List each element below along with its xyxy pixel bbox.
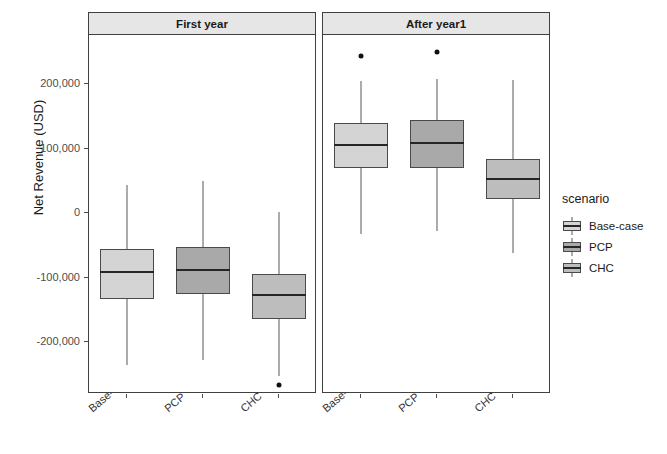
legend-key-icon xyxy=(562,216,582,236)
legend-label: CHC xyxy=(589,262,614,274)
outlier-point xyxy=(359,53,364,58)
legend-item-base-case[interactable]: Base-case xyxy=(562,216,643,236)
whisker-upper xyxy=(437,79,438,120)
y-tick-label: 0 xyxy=(18,206,80,218)
legend-title: scenario xyxy=(562,192,609,206)
facet-panel-first-year: First year xyxy=(88,12,316,393)
y-tick-label: -200,000 xyxy=(18,335,80,347)
boxplot-pcp[interactable] xyxy=(410,35,464,392)
facet-strip-label: After year1 xyxy=(323,13,549,35)
outlier-point xyxy=(435,49,440,54)
x-tick-mark xyxy=(278,394,279,398)
whisker-lower xyxy=(361,168,362,234)
x-tick-label: PCP xyxy=(396,390,421,414)
y-tick-label: 100,000 xyxy=(18,142,80,154)
median-line xyxy=(486,178,540,180)
boxplot-base-case[interactable] xyxy=(100,35,154,392)
x-tick-label: PCP xyxy=(162,390,187,414)
boxplot-pcp[interactable] xyxy=(176,35,230,392)
box-iqr xyxy=(252,274,306,319)
median-line xyxy=(100,271,154,273)
whisker-upper xyxy=(203,181,204,247)
whisker-upper xyxy=(361,81,362,124)
x-tick-mark xyxy=(126,394,127,398)
whisker-lower xyxy=(437,168,438,231)
x-tick-mark xyxy=(360,394,361,398)
whisker-upper xyxy=(127,185,128,250)
facet-strip-label: First year xyxy=(89,13,315,35)
whisker-lower xyxy=(513,199,514,253)
chart-canvas: Net Revenue (USD) 200,000100,0000-100,00… xyxy=(0,0,667,454)
whisker-upper xyxy=(279,212,280,275)
median-line xyxy=(410,142,464,144)
legend-item-chc[interactable]: CHC xyxy=(562,258,614,278)
x-tick-mark xyxy=(202,394,203,398)
x-tick-label: CHC xyxy=(238,390,264,415)
median-line xyxy=(252,294,306,296)
x-tick-label: CHC xyxy=(472,390,498,415)
x-tick-mark xyxy=(512,394,513,398)
facet-panel-after-year1: After year1 xyxy=(322,12,550,393)
plot-area xyxy=(323,35,549,392)
x-tick-mark xyxy=(436,394,437,398)
plot-area xyxy=(89,35,315,392)
whisker-lower xyxy=(203,294,204,360)
median-line xyxy=(176,269,230,271)
whisker-lower xyxy=(127,299,128,365)
box-iqr xyxy=(100,249,154,299)
legend-label: PCP xyxy=(589,241,613,253)
outlier-point xyxy=(277,382,282,387)
boxplot-base-case[interactable] xyxy=(334,35,388,392)
legend-key-icon xyxy=(562,237,582,257)
y-tick-label: 200,000 xyxy=(18,77,80,89)
boxplot-chc[interactable] xyxy=(486,35,540,392)
whisker-lower xyxy=(279,319,280,376)
median-line xyxy=(334,144,388,146)
whisker-upper xyxy=(513,80,514,159)
legend-label: Base-case xyxy=(589,220,643,232)
legend-key-icon xyxy=(562,258,582,278)
y-tick-label: -100,000 xyxy=(18,271,80,283)
boxplot-chc[interactable] xyxy=(252,35,306,392)
legend-item-pcp[interactable]: PCP xyxy=(562,237,613,257)
